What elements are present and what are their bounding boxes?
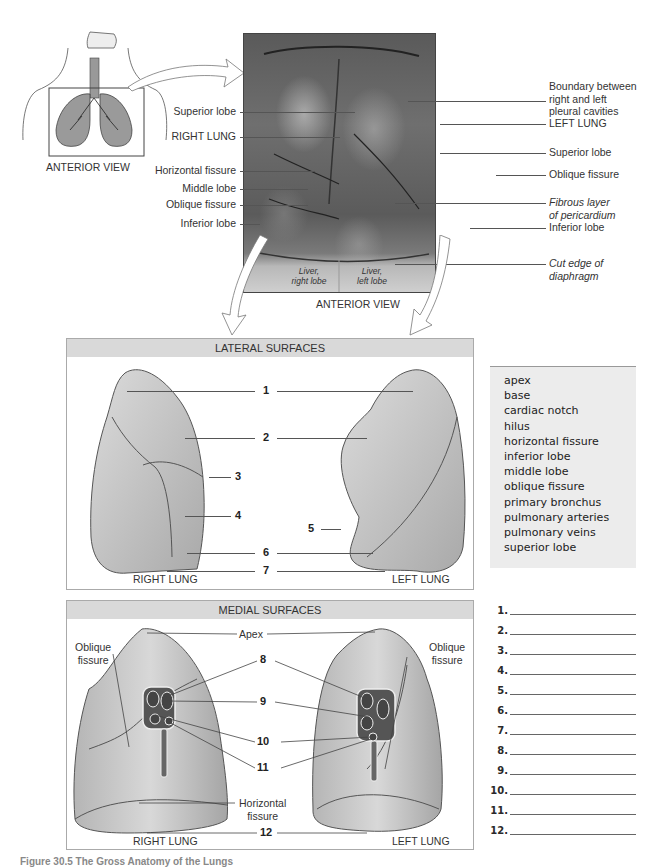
label-oblique-fissure-right-medial: Oblique fissure bbox=[75, 641, 111, 666]
word-bank-item: apex bbox=[490, 373, 636, 388]
word-bank-item: pulmonary veins bbox=[490, 525, 636, 540]
answer-number: 12. bbox=[490, 825, 508, 836]
marker-12: 12 bbox=[260, 826, 272, 838]
label-middle-lobe: Middle lobe bbox=[182, 182, 236, 194]
word-bank-item: inferior lobe bbox=[490, 449, 636, 464]
label-horizontal-fissure: Horizontal fissure bbox=[155, 164, 236, 176]
label-superior-lobe-left: Superior lobe bbox=[549, 146, 611, 158]
marker-7: 7 bbox=[263, 564, 269, 576]
answer-number: 11. bbox=[490, 805, 508, 816]
oblique-left-line-1: Oblique bbox=[75, 641, 111, 653]
answer-number: 6. bbox=[497, 705, 508, 716]
marker-8: 8 bbox=[260, 653, 266, 665]
lateral-title: LATERAL SURFACES bbox=[67, 339, 473, 357]
answer-number: 9. bbox=[497, 765, 508, 776]
horizontal-line-2: fissure bbox=[247, 810, 278, 822]
boundary-line-3: pleural cavities bbox=[549, 105, 618, 117]
marker-10: 10 bbox=[257, 735, 269, 747]
label-cut-edge-diaphragm: Cut edge of diaphragm bbox=[549, 257, 603, 282]
lateral-right-lung-caption: RIGHT LUNG bbox=[133, 573, 198, 585]
label-fibrous-pericardium: Fibrous layer of pericardium bbox=[549, 196, 616, 221]
label-inferior-lobe: Inferior lobe bbox=[181, 217, 236, 229]
medial-title: MEDIAL SURFACES bbox=[67, 601, 473, 619]
horizontal-line-1: Horizontal bbox=[239, 797, 286, 809]
marker-9: 9 bbox=[260, 695, 266, 707]
answer-line-3[interactable]: 3. bbox=[490, 643, 636, 657]
word-bank-item: primary bronchus bbox=[490, 495, 636, 510]
marker-4: 4 bbox=[235, 509, 241, 521]
word-bank-item: hilus bbox=[490, 419, 636, 434]
medial-right-lung-caption: RIGHT LUNG bbox=[133, 835, 198, 847]
boundary-line-2: right and left bbox=[549, 93, 607, 105]
word-bank-item: middle lobe bbox=[490, 464, 636, 479]
medial-surfaces-panel: MEDIAL SURFACES bbox=[66, 600, 474, 850]
marker-3: 3 bbox=[235, 470, 241, 482]
cut-edge-line-2: diaphragm bbox=[549, 270, 599, 282]
word-bank-item: cardiac notch bbox=[490, 403, 636, 418]
torso-diagram bbox=[18, 30, 168, 160]
answer-line-6[interactable]: 6. bbox=[490, 703, 636, 717]
oblique-left-line-2: fissure bbox=[78, 654, 109, 666]
label-apex: Apex bbox=[239, 628, 263, 640]
diagram-caption: ANTERIOR VIEW bbox=[46, 161, 130, 173]
answer-line-4[interactable]: 4. bbox=[490, 663, 636, 677]
answer-line-11[interactable]: 11. bbox=[490, 803, 636, 817]
answer-number: 2. bbox=[497, 625, 508, 636]
word-bank-item: oblique fissure bbox=[490, 479, 636, 494]
label-left-lung: LEFT LUNG bbox=[549, 117, 607, 129]
cut-edge-line-1: Cut edge of bbox=[549, 257, 603, 269]
answer-line-1[interactable]: 1. bbox=[490, 603, 636, 617]
word-bank-item: superior lobe bbox=[490, 540, 636, 555]
label-oblique-fissure-left: Oblique fissure bbox=[549, 168, 619, 180]
answer-number: 10. bbox=[490, 785, 508, 796]
marker-6: 6 bbox=[263, 546, 269, 558]
lateral-left-lung-caption: LEFT LUNG bbox=[392, 573, 450, 585]
answer-number: 1. bbox=[497, 605, 508, 616]
fibrous-line-2: of pericardium bbox=[549, 209, 616, 221]
oblique-right-line-2: fissure bbox=[432, 654, 463, 666]
word-bank-item: base bbox=[490, 388, 636, 403]
boundary-line-1: Boundary between bbox=[549, 80, 637, 92]
marker-1: 1 bbox=[263, 384, 269, 396]
answer-line-8[interactable]: 8. bbox=[490, 743, 636, 757]
word-bank: apex base cardiac notch hilus horizontal… bbox=[490, 366, 636, 568]
oblique-right-line-1: Oblique bbox=[429, 641, 465, 653]
answer-line-2[interactable]: 2. bbox=[490, 623, 636, 637]
answer-line-7[interactable]: 7. bbox=[490, 723, 636, 737]
answer-line-9[interactable]: 9. bbox=[490, 763, 636, 777]
answer-line-12[interactable]: 12. bbox=[490, 823, 636, 837]
label-oblique-fissure-left-medial: Oblique fissure bbox=[429, 641, 465, 666]
label-superior-lobe: Superior lobe bbox=[174, 105, 236, 117]
marker-5: 5 bbox=[308, 522, 314, 534]
lateral-surfaces-panel: LATERAL SURFACES 1 2 3 4 5 6 7 RIGHT LUN… bbox=[66, 338, 474, 590]
answer-number: 3. bbox=[497, 645, 508, 656]
word-bank-item: horizontal fissure bbox=[490, 434, 636, 449]
answer-number: 5. bbox=[497, 685, 508, 696]
figure-caption: Figure 30.5 The Gross Anatomy of the Lun… bbox=[20, 856, 233, 867]
label-horizontal-fissure-medial: Horizontal fissure bbox=[239, 797, 286, 822]
answer-number: 4. bbox=[497, 665, 508, 676]
answer-line-5[interactable]: 5. bbox=[490, 683, 636, 697]
fibrous-line-1: Fibrous layer bbox=[549, 196, 610, 208]
label-right-lung: RIGHT LUNG bbox=[171, 130, 236, 142]
label-boundary: Boundary between right and left pleural … bbox=[549, 80, 637, 118]
medial-left-lung-caption: LEFT LUNG bbox=[392, 835, 450, 847]
label-inferior-lobe-left: Inferior lobe bbox=[549, 221, 604, 233]
answer-number: 8. bbox=[497, 745, 508, 756]
marker-11: 11 bbox=[257, 761, 269, 773]
marker-2: 2 bbox=[263, 431, 269, 443]
label-oblique-fissure: Oblique fissure bbox=[166, 198, 236, 210]
arrows-down-icon bbox=[60, 235, 500, 345]
word-bank-item: pulmonary arteries bbox=[490, 510, 636, 525]
answer-number: 7. bbox=[497, 725, 508, 736]
answer-line-10[interactable]: 10. bbox=[490, 783, 636, 797]
arrow-to-photo-icon bbox=[120, 55, 250, 95]
